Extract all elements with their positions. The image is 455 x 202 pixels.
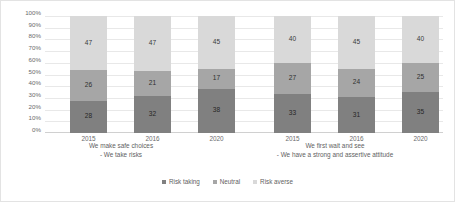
y-tick-60: 60% xyxy=(29,57,41,63)
stacked-bar-2020[interactable]: 40 25 35 xyxy=(402,16,439,133)
group-caption-right-line1: We first wait and see xyxy=(229,141,441,150)
group-caption-right: We first wait and see - We have a strong… xyxy=(229,141,441,160)
segment-neutral: 17 xyxy=(198,69,235,89)
group-caption-left-line2: - We take risks xyxy=(21,150,221,159)
segment-risk-taking: 35 xyxy=(402,92,439,133)
segment-risk-averse: 47 xyxy=(134,16,171,71)
y-tick-100: 100% xyxy=(25,10,41,16)
y-tick-20: 20% xyxy=(29,104,41,110)
y-tick-0: 0% xyxy=(32,127,41,133)
stacked-bar-2016[interactable]: 45 24 31 xyxy=(338,16,375,133)
segment-neutral: 21 xyxy=(134,71,171,96)
legend-item-risk-taking[interactable]: Risk taking xyxy=(162,179,200,185)
segment-risk-averse: 47 xyxy=(70,16,107,70)
y-axis: 100% 90% 80% 70% 60% 50% 40% 30% 20% 10%… xyxy=(7,10,41,139)
segment-neutral: 25 xyxy=(402,63,439,92)
segment-risk-taking: 33 xyxy=(274,94,311,133)
segment-neutral: 24 xyxy=(338,69,375,97)
segment-risk-averse: 40 xyxy=(402,16,439,63)
y-tick-50: 50% xyxy=(29,69,41,75)
stacked-bar-2020[interactable]: 45 17 38 xyxy=(198,16,235,133)
segment-risk-taking: 31 xyxy=(338,97,375,133)
segment-risk-averse: 40 xyxy=(274,16,311,63)
legend-label-neutral: Neutral xyxy=(220,179,240,185)
legend-swatch-icon xyxy=(253,180,257,184)
y-tick-80: 80% xyxy=(29,33,41,39)
chart-container: 100% 90% 80% 70% 60% 50% 40% 30% 20% 10%… xyxy=(0,0,455,202)
segment-neutral: 26 xyxy=(70,70,107,100)
y-tick-40: 40% xyxy=(29,80,41,86)
segment-risk-taking: 28 xyxy=(70,101,107,133)
legend-swatch-icon xyxy=(213,180,217,184)
legend-item-risk-averse[interactable]: Risk averse xyxy=(253,179,293,185)
segment-risk-taking: 38 xyxy=(198,89,235,133)
y-tick-30: 30% xyxy=(29,92,41,98)
group-caption-left: We make safe choices - We take risks xyxy=(21,141,221,160)
legend-label-risk-taking: Risk taking xyxy=(169,179,200,185)
chart-legend: Risk taking Neutral Risk averse xyxy=(1,179,454,185)
segment-neutral: 27 xyxy=(274,63,311,95)
group-caption-right-line2: - We have a strong and assertive attitud… xyxy=(229,150,441,159)
legend-label-risk-averse: Risk averse xyxy=(260,179,293,185)
y-tick-90: 90% xyxy=(29,22,41,28)
group-caption-left-line1: We make safe choices xyxy=(21,141,221,150)
plot-area: 47 26 28 47 21 32 45 17 38 2015 2016 202… xyxy=(45,16,443,133)
stacked-bar-2015[interactable]: 47 26 28 xyxy=(70,16,107,133)
bar-group-safe-choices: 47 26 28 47 21 32 45 17 38 2015 2016 202… xyxy=(45,16,239,133)
bar-group-wait-and-see: 40 27 33 45 24 31 40 25 35 2015 2016 202… xyxy=(253,16,443,133)
y-tick-70: 70% xyxy=(29,45,41,51)
legend-item-neutral[interactable]: Neutral xyxy=(213,179,240,185)
stacked-bar-2016[interactable]: 47 21 32 xyxy=(134,16,171,133)
y-tick-10: 10% xyxy=(29,115,41,121)
legend-swatch-icon xyxy=(162,180,166,184)
segment-risk-taking: 32 xyxy=(134,96,171,133)
segment-risk-averse: 45 xyxy=(338,16,375,69)
stacked-bar-2015[interactable]: 40 27 33 xyxy=(274,16,311,133)
segment-risk-averse: 45 xyxy=(198,16,235,69)
